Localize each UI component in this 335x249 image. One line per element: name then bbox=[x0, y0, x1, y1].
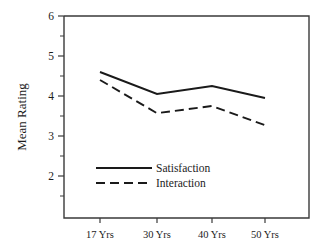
y-tick-label-3: 3 bbox=[48, 130, 54, 142]
y-tick-label-6: 6 bbox=[48, 10, 54, 22]
x-tick-label-40yrs: 40 Yrs bbox=[198, 229, 226, 240]
x-tick-label-30yrs: 30 Yrs bbox=[143, 229, 171, 240]
chart-legend: Satisfaction Interaction bbox=[96, 162, 211, 189]
line-chart: 6 5 4 3 2 Mean Rating 17 Yrs 30 Yrs 40 Y… bbox=[0, 0, 335, 249]
series-line-interaction bbox=[100, 80, 265, 125]
x-axis-ticks bbox=[100, 218, 265, 223]
y-axis-major-ticks bbox=[58, 16, 64, 176]
y-tick-label-5: 5 bbox=[48, 50, 54, 62]
x-tick-label-17yrs: 17 Yrs bbox=[86, 229, 114, 240]
legend-label-interaction: Interaction bbox=[156, 177, 206, 189]
y-tick-label-4: 4 bbox=[48, 90, 54, 102]
y-tick-label-2: 2 bbox=[48, 170, 54, 182]
legend-label-satisfaction: Satisfaction bbox=[156, 162, 211, 174]
y-axis-title: Mean Rating bbox=[14, 83, 29, 151]
x-tick-label-50yrs: 50 Yrs bbox=[251, 229, 279, 240]
chart-figure: 6 5 4 3 2 Mean Rating 17 Yrs 30 Yrs 40 Y… bbox=[0, 0, 335, 249]
